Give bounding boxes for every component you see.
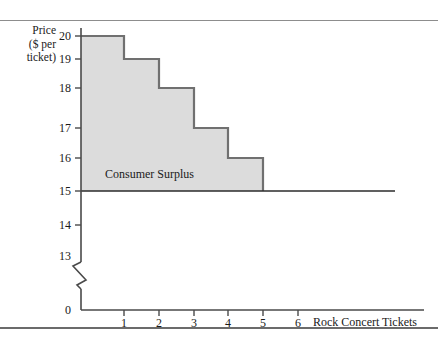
x-axis-title: Rock Concert Tickets (313, 315, 417, 330)
y-tick-label-14: 14 (49, 218, 71, 233)
y-tick-label-19: 19 (49, 52, 71, 67)
chart-canvas (0, 0, 438, 339)
axis-break-zigzag (73, 262, 86, 289)
x-tick-label-3: 3 (186, 316, 202, 331)
y-tick-label-16: 16 (49, 151, 71, 166)
y-tick-label-0: 0 (49, 303, 71, 318)
y-tick-label-13: 13 (49, 249, 71, 264)
x-tick-label-4: 4 (220, 316, 236, 331)
figure-container: Price ($ per ticket) 20 19 18 17 16 15 1… (0, 0, 438, 339)
y-tick-label-17: 17 (49, 121, 71, 136)
y-tick-label-18: 18 (49, 81, 71, 96)
x-tick-label-6: 6 (290, 316, 306, 331)
x-tick-label-2: 2 (151, 316, 167, 331)
consumer-surplus-label: Consumer Surplus (105, 167, 194, 182)
y-axis-ticks (75, 36, 81, 225)
y-tick-label-20: 20 (49, 29, 71, 44)
y-tick-label-15: 15 (49, 184, 71, 199)
x-tick-label-1: 1 (116, 316, 132, 331)
x-tick-label-5: 5 (255, 316, 271, 331)
